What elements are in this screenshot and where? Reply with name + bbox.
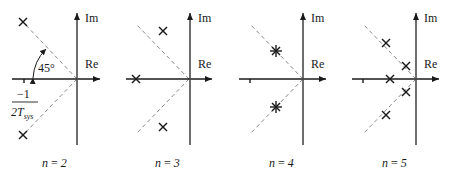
pole-x-icon [19, 18, 27, 26]
asymptote-lower [363, 79, 416, 134]
caption-n3: n = 3 [155, 156, 180, 170]
asymptote-upper [363, 24, 416, 79]
pole-label-denominator: 2Tsys [11, 105, 33, 121]
panel-n5: Im Re n = 5 [352, 11, 439, 170]
imag-axis-label: Im [424, 11, 438, 25]
imag-axis-label: Im [311, 11, 325, 25]
real-axis-label: Re [311, 57, 324, 71]
caption-n2: n = 2 [42, 156, 67, 170]
pole-x-icon [159, 27, 167, 35]
pole-x-icon [159, 123, 167, 131]
asymptote-lower [23, 79, 77, 135]
pole-label-numerator: −1 [17, 87, 30, 101]
panel-n4: Im Re n = 4 [239, 11, 326, 170]
pole-zero-diagram: 45° Im Re −1 2Tsys n = 2 Im Re n = 3 [0, 0, 452, 178]
pole-x-icon [382, 39, 390, 47]
caption-n5: n = 5 [382, 156, 407, 170]
caption-n4: n = 4 [269, 156, 294, 170]
pole-x-icon [382, 111, 390, 119]
panel-n3: Im Re n = 3 [126, 11, 212, 170]
imag-axis-label: Im [198, 11, 212, 25]
real-axis-label: Re [198, 57, 211, 71]
real-axis-label: Re [424, 57, 437, 71]
imag-axis-label: Im [85, 11, 99, 25]
real-axis-label: Re [85, 57, 98, 71]
panel-n2: 45° Im Re −1 2Tsys n = 2 [11, 11, 100, 170]
pole-x-icon [19, 131, 27, 139]
angle-label: 45° [38, 61, 55, 75]
